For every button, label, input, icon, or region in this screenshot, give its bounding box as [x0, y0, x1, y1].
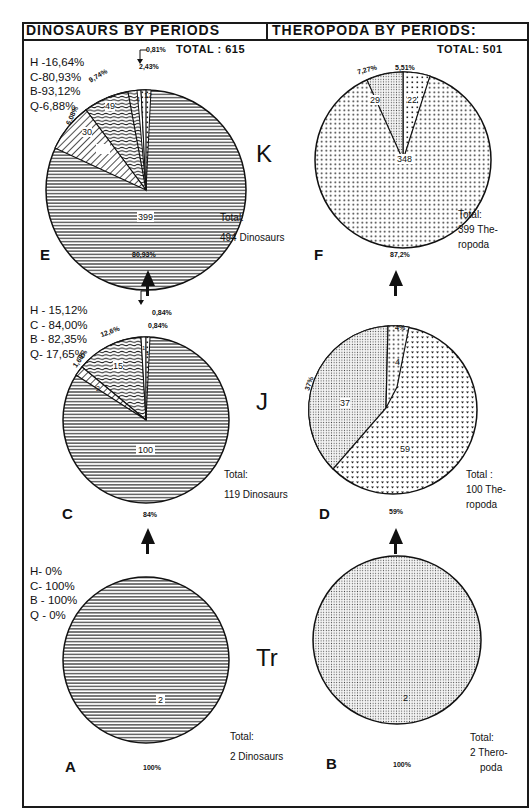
pct-f-551: 5,51%: [395, 64, 415, 71]
arrow-up-icon: [389, 528, 403, 544]
period-k: K: [256, 140, 272, 168]
arrow-up-icon: [141, 270, 155, 286]
pie-b: [313, 556, 481, 724]
label-e-30: 30: [82, 127, 92, 137]
label-c-1b: 1: [146, 350, 149, 356]
legend-e: H -16,64% C-80,93% B-93,12% Q-6,88%: [30, 55, 84, 113]
label-e-49: 49: [105, 101, 115, 111]
pct-d-bottom: 59%: [389, 508, 403, 515]
panel-total-c: Total: 119 Dinosaurs: [224, 467, 288, 502]
arrow-up-icon: [389, 270, 403, 286]
label-b-2: 2: [403, 693, 408, 703]
label-c-1a: 1: [142, 345, 145, 351]
arrow-up-icon: [141, 528, 155, 544]
label-c-100: 100: [136, 445, 155, 455]
panel-letter-e: E: [40, 246, 50, 263]
panel-letter-f: F: [314, 246, 323, 263]
label-e-4: 4: [136, 96, 140, 103]
pie-d: [309, 326, 477, 494]
label-e-12: 12: [144, 92, 152, 99]
label-f-22: 22: [407, 95, 417, 105]
pct-d-4: 4%: [395, 324, 405, 331]
arrow-stem: [394, 544, 397, 554]
label-f-29: 29: [370, 95, 380, 105]
panel-letter-d: D: [319, 505, 330, 522]
panel-total-d: Total : 100 The- ropoda: [466, 467, 506, 512]
label-c-15: 15: [113, 361, 123, 371]
pct-c-bottom: 84%: [143, 511, 157, 518]
arrow-stem: [146, 544, 149, 554]
pct-a-bottom: 100%: [143, 764, 161, 771]
label-d-59: 59: [400, 444, 410, 454]
label-f-348: 348: [396, 154, 413, 164]
pie-a: [63, 577, 229, 743]
panel-letter-a: A: [65, 758, 76, 775]
pct-b-bottom: 100%: [393, 761, 411, 768]
panel-total-b: Total: 2 Thero- poda: [470, 730, 508, 775]
label-a-2: 2: [156, 695, 165, 705]
label-c-2: 2: [96, 385, 100, 392]
panel-total-e: Total: 494 Dinosaurs: [220, 210, 284, 245]
legend-c: H - 15,12% C - 84,00% B - 82,35% Q- 17,6…: [30, 303, 88, 361]
pct-e-081: 0,81%: [146, 46, 166, 53]
pct-c-084a: 0,84%: [152, 309, 172, 316]
period-j: J: [256, 388, 268, 416]
label-d-37: 37: [340, 398, 350, 408]
arrow-stem: [146, 286, 149, 296]
pie-c: [63, 337, 229, 503]
label-e-399: 399: [137, 212, 154, 222]
panel-total-a: Total: 2 Dinosaurs: [230, 729, 283, 764]
legend-a: H- 0% C- 100% B - 100% Q - 0%: [30, 564, 77, 622]
period-tr: Tr: [256, 644, 278, 672]
panel-total-f: Total: 399 The- ropoda: [458, 207, 498, 252]
label-d-4: 4: [395, 357, 400, 367]
panel-letter-b: B: [326, 755, 337, 772]
pct-e-243: 2,43%: [139, 63, 159, 70]
arrow-stem: [394, 286, 397, 296]
pct-e-bottom: 80,93%: [132, 251, 156, 258]
panel-letter-c: C: [62, 505, 73, 522]
pct-f-bottom: 87,2%: [390, 251, 410, 258]
pie-e: [46, 90, 246, 290]
pct-c-084b: 0,84%: [148, 322, 168, 329]
